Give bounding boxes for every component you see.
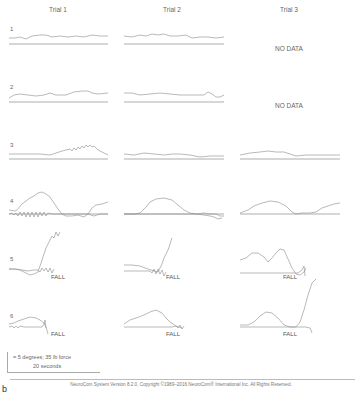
trace-r3-t3	[240, 151, 340, 159]
trace-r3-t2	[124, 153, 224, 159]
trace-r4-t3	[240, 201, 340, 214]
panel-label: b	[2, 384, 7, 394]
scale-legend: = 5 degrees; 35 lb force 20 seconds	[7, 352, 100, 373]
trace-r6-t3	[240, 279, 316, 333]
trace-r2-t2	[124, 92, 224, 102]
trace-r6-t2	[124, 310, 184, 329]
trace-r3-t1	[9, 145, 108, 159]
trace-r5-t3	[240, 249, 306, 276]
trace-r6-t1	[9, 317, 48, 334]
trace-r1-t1	[9, 35, 108, 44]
trace-r4-t2	[124, 198, 224, 219]
trace-r5-t2	[124, 238, 172, 276]
footer-divider	[10, 379, 355, 380]
legend-scale-text: = 5 degrees; 35 lb force	[13, 354, 71, 360]
trace-r1-t2	[124, 34, 224, 44]
trace-r4-t1	[9, 192, 108, 217]
legend-time-text: 20 seconds	[33, 363, 61, 369]
trace-r2-t1	[9, 91, 108, 102]
trace-plots	[0, 0, 362, 395]
copyright-footer: NeuroCom System Version 8.2.0, Copyright…	[0, 382, 362, 387]
trace-r5-t1	[9, 232, 60, 275]
